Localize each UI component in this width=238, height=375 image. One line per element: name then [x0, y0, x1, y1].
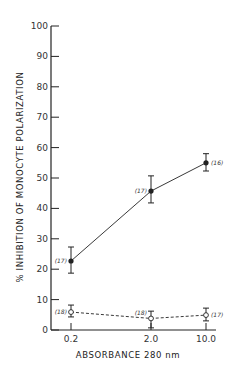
sample-size-label: (17) — [211, 311, 223, 318]
series-layer: (17)(17)(16)(18)(18)(17) — [55, 154, 224, 328]
y-tick-label: 100 — [31, 21, 48, 31]
data-point-open — [204, 313, 209, 318]
data-point-filled — [203, 160, 208, 165]
y-tick-label: 80 — [37, 82, 49, 92]
x-tick-label: 0.2 — [64, 334, 78, 344]
sample-size-label: (18) — [135, 309, 147, 316]
series-line — [71, 163, 206, 261]
sample-size-label: (17) — [55, 257, 67, 264]
y-tick-label: 30 — [37, 234, 49, 244]
y-tick-label: 20 — [37, 264, 49, 274]
x-axis: 0.22.010.0 — [51, 323, 216, 344]
x-axis-title: ABSORBANCE 280 nm — [76, 350, 180, 360]
y-axis: 0102030405060708090100 — [31, 21, 59, 335]
y-tick-label: 0 — [42, 325, 48, 335]
y-tick-label: 90 — [37, 51, 49, 61]
sample-size-label: (18) — [55, 308, 67, 315]
sample-size-label: (17) — [135, 187, 147, 194]
x-tick-label: 10.0 — [196, 334, 216, 344]
y-tick-label: 50 — [37, 173, 49, 183]
line-chart: 0102030405060708090100 0.22.010.0 (17)(1… — [0, 0, 238, 375]
series-filled: (17)(17)(16) — [55, 154, 224, 273]
data-point-filled — [68, 258, 73, 263]
y-tick-label: 60 — [37, 143, 49, 153]
y-axis-title: % INHIBITION OF MONOCYTE POLARIZATION — [15, 72, 25, 283]
y-tick-label: 70 — [37, 112, 49, 122]
data-point-filled — [148, 188, 153, 193]
series-open: (18)(18)(17) — [55, 305, 224, 328]
data-point-open — [149, 316, 154, 321]
data-point-open — [69, 310, 74, 315]
x-tick-label: 2.0 — [144, 334, 159, 344]
y-tick-label: 10 — [37, 295, 49, 305]
y-tick-label: 40 — [37, 203, 49, 213]
sample-size-label: (16) — [211, 159, 223, 166]
